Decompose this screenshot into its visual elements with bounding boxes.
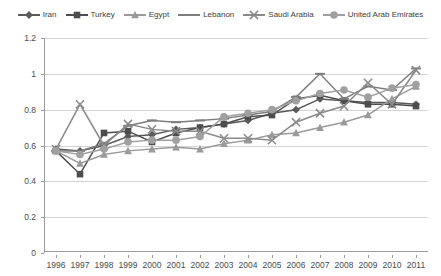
x-tick-mark — [104, 255, 105, 258]
square-marker — [125, 128, 132, 135]
x-tick-label: 2002 — [191, 260, 210, 270]
y-tick-label: 1 — [31, 69, 36, 79]
legend-item-iran[interactable]: Iran — [18, 10, 57, 20]
line-marker — [184, 14, 194, 16]
legend-item-saudi-arabia[interactable]: Saudi Arabia — [243, 10, 313, 20]
x-axis-labels: 1996199719981999200020012002200320042005… — [44, 255, 428, 271]
square-marker — [73, 12, 80, 19]
square-marker — [101, 130, 108, 137]
y-tick-label: 0.4 — [24, 176, 36, 186]
x-tick-label: 1999 — [119, 260, 138, 270]
x-tick-label: 1997 — [71, 260, 90, 270]
x-tick-mark — [80, 255, 81, 258]
series-egypt — [52, 82, 420, 166]
circle-icon — [323, 10, 345, 20]
y-tick-label: 0.8 — [24, 105, 36, 115]
line-marker — [315, 73, 325, 75]
series-line — [56, 86, 416, 163]
x-tick-mark — [56, 255, 57, 258]
y-tick-mark — [41, 38, 44, 39]
triangle-marker — [364, 111, 372, 118]
legend-label: Lebanon — [203, 10, 234, 20]
legend-label: Turkey — [91, 10, 115, 20]
x-tick-label: 2009 — [359, 260, 378, 270]
x-tick-mark — [152, 255, 153, 258]
line-marker — [195, 119, 205, 121]
legend-label: United Arab Emirates — [348, 10, 424, 20]
square-icon — [66, 10, 88, 20]
y-tick-mark — [41, 217, 44, 218]
circle-marker — [148, 136, 156, 144]
x-tick-label: 2006 — [287, 260, 306, 270]
diamond-marker — [25, 11, 33, 19]
x-tick-label: 2011 — [407, 260, 425, 270]
x-tick-mark — [392, 255, 393, 258]
legend-item-turkey[interactable]: Turkey — [66, 10, 115, 20]
circle-marker — [388, 84, 396, 92]
circle-marker — [100, 145, 108, 153]
square-marker — [221, 121, 228, 128]
y-tick-mark — [41, 146, 44, 147]
x-tick-mark — [176, 255, 177, 258]
x-tick-label: 2004 — [239, 260, 258, 270]
x-tick-mark — [128, 255, 129, 258]
line-marker — [339, 98, 349, 100]
legend-label: Iran — [43, 10, 57, 20]
cross-marker — [292, 118, 300, 126]
y-tick-mark — [41, 110, 44, 111]
circle-marker — [316, 90, 324, 98]
x-tick-mark — [416, 255, 417, 258]
square-marker — [413, 103, 420, 110]
circle-marker — [196, 133, 204, 141]
chart-legend: IranTurkeyEgyptLebanonSaudi ArabiaUnited… — [0, 7, 441, 23]
circle-marker — [172, 136, 180, 144]
y-tick-label: 0 — [31, 248, 36, 258]
x-tick-label: 2010 — [383, 260, 402, 270]
x-tick-mark — [344, 255, 345, 258]
y-tick-mark — [41, 253, 44, 254]
x-tick-mark — [200, 255, 201, 258]
x-tick-label: 2001 — [167, 260, 186, 270]
x-tick-mark — [224, 255, 225, 258]
diamond-icon — [18, 10, 40, 20]
legend-label: Egypt — [149, 10, 169, 20]
line-chart: IranTurkeyEgyptLebanonSaudi ArabiaUnited… — [0, 0, 441, 276]
x-tick-mark — [296, 255, 297, 258]
line-marker — [147, 119, 157, 121]
series-turkey — [53, 92, 420, 177]
circle-marker — [412, 81, 420, 89]
x-tick-mark — [272, 255, 273, 258]
triangle-icon — [124, 10, 146, 20]
x-tick-label: 1996 — [47, 260, 66, 270]
y-axis-labels: 00.20.40.60.811.2 — [0, 38, 40, 253]
line-icon — [178, 10, 200, 20]
legend-item-lebanon[interactable]: Lebanon — [178, 10, 234, 20]
circle-marker — [268, 106, 276, 114]
circle-marker — [340, 86, 348, 94]
diamond-marker — [292, 106, 300, 114]
circle-marker — [124, 138, 132, 146]
square-marker — [365, 101, 372, 108]
circle-marker — [76, 151, 84, 159]
circle-marker — [364, 93, 372, 101]
square-marker — [77, 171, 84, 178]
series-line — [56, 99, 416, 151]
legend-item-egypt[interactable]: Egypt — [124, 10, 169, 20]
legend-label: Saudi Arabia — [268, 10, 313, 20]
x-tick-label: 2003 — [215, 260, 234, 270]
x-tick-label: 2000 — [143, 260, 162, 270]
circle-marker — [52, 147, 60, 155]
y-tick-mark — [41, 181, 44, 182]
triangle-marker — [131, 11, 139, 18]
plot-area — [44, 38, 428, 252]
x-tick-label: 2005 — [263, 260, 282, 270]
legend-item-united-arab-emirates[interactable]: United Arab Emirates — [323, 10, 424, 20]
series-united-arab-emirates — [52, 81, 420, 158]
y-tick-label: 0.2 — [24, 212, 36, 222]
x-tick-mark — [368, 255, 369, 258]
series-line — [56, 95, 416, 174]
cross-marker — [76, 100, 84, 108]
circle-marker — [220, 113, 228, 121]
x-tick-mark — [248, 255, 249, 258]
y-tick-label: 1.2 — [24, 33, 36, 43]
